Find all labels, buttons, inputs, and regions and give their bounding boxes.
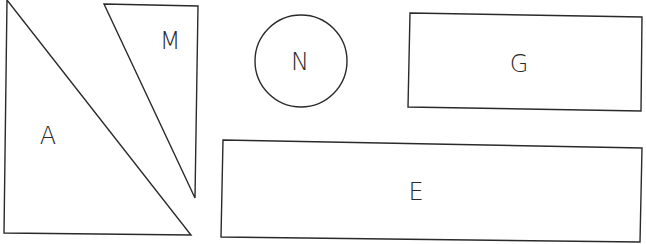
rectangle-e-label: E [408,178,423,206]
triangle-a-label: A [40,122,56,150]
shapes-diagram: A M N G E [0,0,646,244]
rectangle-e: E [221,140,642,242]
triangle-m: M [104,4,198,198]
circle-n: N [255,15,347,107]
rectangle-g: G [408,13,642,111]
triangle-m-outline [104,4,198,198]
circle-n-label: N [291,48,309,76]
rectangle-g-label: G [510,50,529,78]
rectangle-e-outline [221,140,642,242]
triangle-m-label: M [160,27,181,55]
